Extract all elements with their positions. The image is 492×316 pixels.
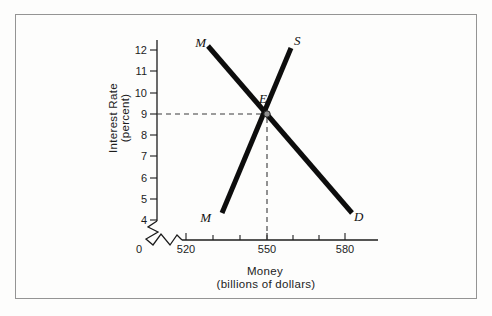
y-tick-label-10: 10 bbox=[135, 87, 147, 99]
y-axis-title-line1: Interest Rate bbox=[107, 83, 119, 153]
y-tick-label-5: 5 bbox=[141, 193, 147, 205]
money-market-chart: 12 11 10 9 8 7 6 5 4 0 520 550 580 Inter… bbox=[0, 0, 492, 316]
figure-canvas: 12 11 10 9 8 7 6 5 4 0 520 550 580 Inter… bbox=[0, 0, 492, 316]
y-axis-title-line2: (percent) bbox=[119, 94, 131, 143]
demand-curve-bottom-label: D bbox=[353, 209, 364, 224]
equilibrium-label: E bbox=[258, 91, 267, 106]
x-axis-title-line2: (billions of dollars) bbox=[217, 278, 316, 290]
y-tick-label-6: 6 bbox=[141, 172, 147, 184]
x-tick-label-520: 520 bbox=[177, 243, 195, 255]
y-tick-label-8: 8 bbox=[141, 129, 147, 141]
x-tick-label-550: 550 bbox=[258, 243, 276, 255]
demand-curve-top-label: M bbox=[194, 35, 207, 50]
y-tick-label-7: 7 bbox=[141, 150, 147, 162]
origin-label: 0 bbox=[136, 243, 142, 255]
y-tick-label-4: 4 bbox=[141, 214, 147, 226]
y-tick-label-9: 9 bbox=[141, 108, 147, 120]
supply-curve-bottom-label: M bbox=[199, 210, 212, 225]
supply-curve-top-label: S bbox=[294, 33, 301, 48]
y-tick-label-12: 12 bbox=[135, 44, 147, 56]
x-tick-label-580: 580 bbox=[336, 243, 354, 255]
x-axis-title-line1: Money bbox=[247, 265, 283, 277]
y-tick-label-11: 11 bbox=[136, 65, 147, 77]
equilibrium-point bbox=[264, 111, 270, 117]
